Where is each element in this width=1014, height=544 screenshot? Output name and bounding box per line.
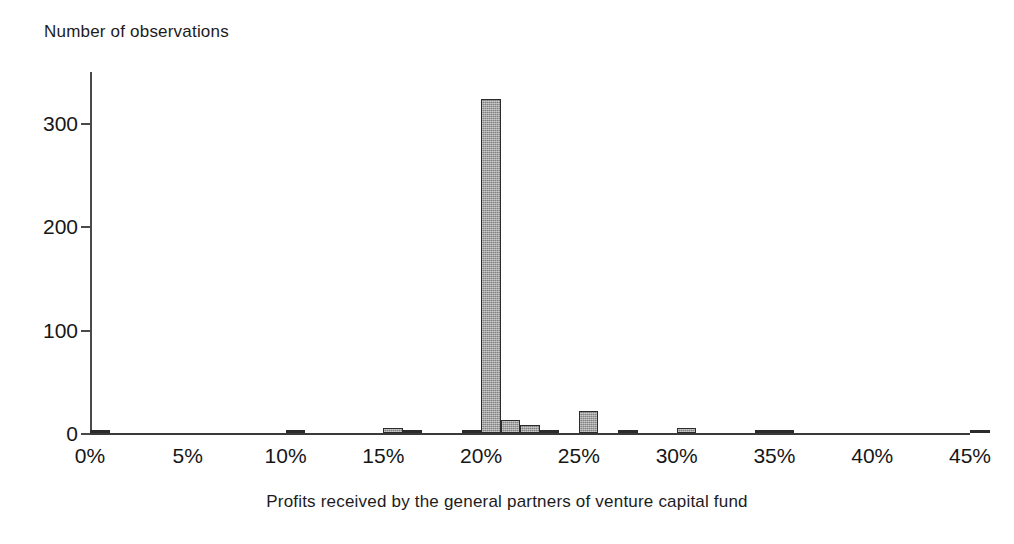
y-axis-tick xyxy=(81,123,90,125)
y-axis-tick xyxy=(81,330,90,332)
bar xyxy=(970,430,990,433)
x-axis-title: Profits received by the general partners… xyxy=(0,492,1014,512)
x-axis-tick-label: 10% xyxy=(265,444,307,468)
bar xyxy=(618,430,638,433)
x-axis-tick-label: 25% xyxy=(558,444,600,468)
histogram-figure: Number of observations 0100200300 0%5%10… xyxy=(0,0,1014,544)
y-axis-tick xyxy=(81,433,90,435)
bar xyxy=(755,430,775,433)
bar xyxy=(520,425,540,433)
y-axis-title: Number of observations xyxy=(44,22,229,42)
bar xyxy=(286,430,306,433)
x-axis-tick-label: 5% xyxy=(173,444,203,468)
bar xyxy=(90,430,110,433)
x-axis-tick-label: 40% xyxy=(851,444,893,468)
x-axis-tick-label: 35% xyxy=(753,444,795,468)
x-axis-tick-label: 45% xyxy=(949,444,991,468)
y-axis-line xyxy=(90,72,92,434)
bar xyxy=(677,428,697,433)
x-axis-tick-label: 30% xyxy=(656,444,698,468)
y-axis-tick-label: 0 xyxy=(66,423,78,444)
y-axis-tick-labels: 0100200300 xyxy=(14,72,78,434)
plot-area: 0100200300 xyxy=(90,72,970,434)
bar xyxy=(501,420,521,433)
y-axis-tick-label: 300 xyxy=(43,113,78,134)
x-axis-tick-label: 15% xyxy=(362,444,404,468)
bar xyxy=(579,411,599,433)
x-axis-tick-label: 0% xyxy=(75,444,105,468)
bar xyxy=(383,428,403,433)
bar xyxy=(540,430,560,433)
bar xyxy=(774,430,794,433)
x-axis-line xyxy=(90,433,970,435)
y-axis-tick xyxy=(81,226,90,228)
bar xyxy=(403,430,423,433)
y-axis-tick-label: 200 xyxy=(43,216,78,237)
x-axis-tick-label: 20% xyxy=(460,444,502,468)
bar xyxy=(462,430,482,433)
bar xyxy=(481,99,501,433)
x-axis-tick-labels: 0%5%10%15%20%25%30%35%40%45% xyxy=(90,444,970,474)
y-axis-tick-label: 100 xyxy=(43,320,78,341)
